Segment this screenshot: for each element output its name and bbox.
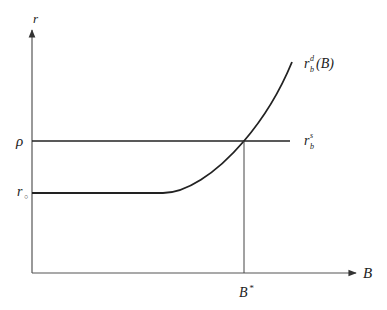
b-star-label: B [239, 285, 248, 300]
b-star-superscript: * [249, 283, 254, 293]
x-axis-label: B [363, 265, 372, 281]
rho-label: ρ [15, 133, 23, 149]
r0-subscript: ○ [24, 193, 28, 201]
demand-label-sub: b [310, 65, 314, 74]
demand-label-sup: d [310, 54, 315, 63]
diagram-canvas: r B ρ r ○ B * r d b (B) r s b [0, 0, 387, 310]
y-axis-label: r [33, 11, 39, 26]
r0-label: r [17, 184, 23, 199]
demand-label-arg: (B) [316, 56, 334, 72]
supply-label-sup: s [310, 131, 313, 140]
demand-curve [32, 62, 292, 193]
supply-label-sub: b [310, 142, 314, 151]
